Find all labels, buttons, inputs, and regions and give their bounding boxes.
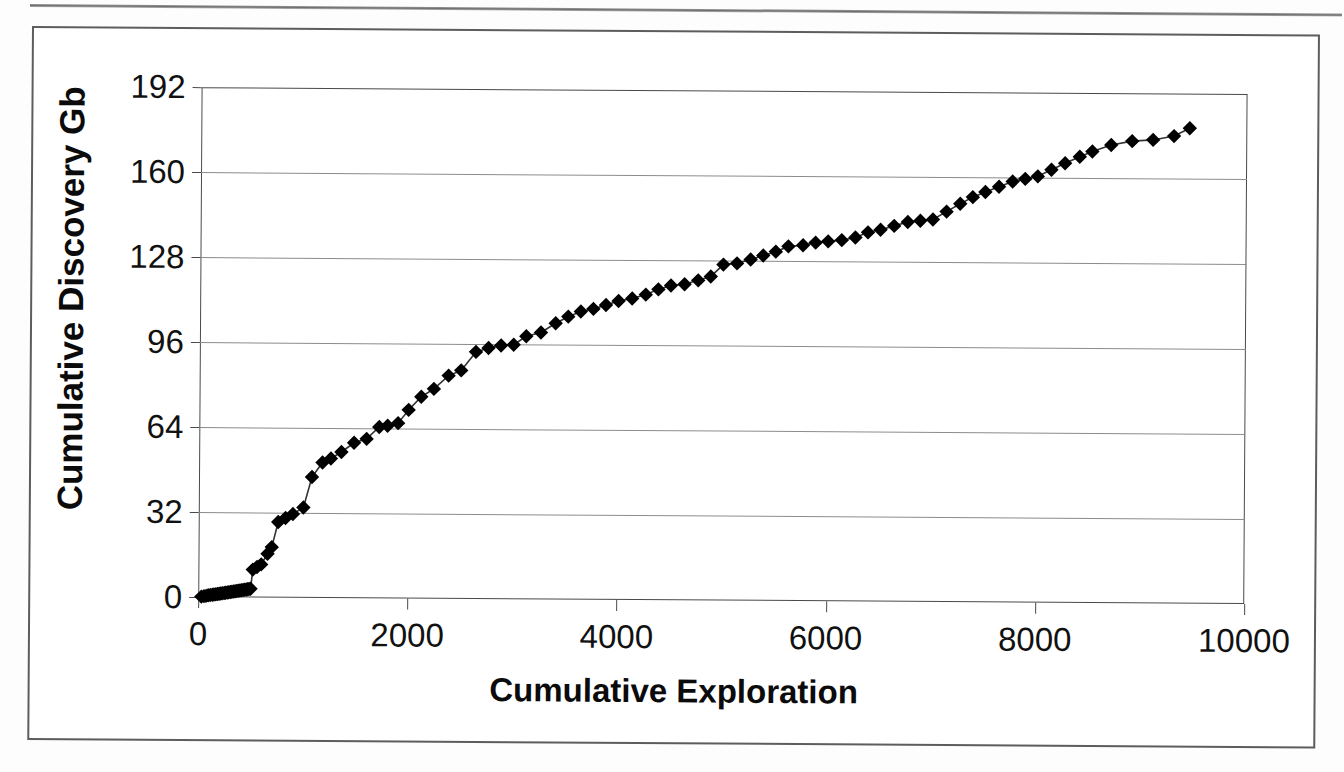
x-tick-label-0: 0 <box>189 615 208 653</box>
data-point-marker <box>1031 169 1045 183</box>
series-line <box>201 122 1189 603</box>
data-point-marker <box>519 329 533 343</box>
y-tick-label-96: 96 <box>147 323 184 361</box>
data-point-marker <box>347 436 361 450</box>
data-point-marker <box>548 316 562 330</box>
data-point-marker <box>494 338 508 352</box>
chart-frame: Cumulative Discovery Gb 0326496128160192… <box>27 26 1320 749</box>
data-point-marker <box>611 294 625 308</box>
data-point-marker <box>677 277 691 291</box>
data-point-marker <box>873 223 887 237</box>
x-tick-label-2000: 2000 <box>370 616 444 654</box>
data-point-marker <box>506 337 520 351</box>
data-point-marker <box>305 470 319 484</box>
data-point-marker <box>1018 172 1032 186</box>
y-tick-mark-160 <box>192 172 201 173</box>
data-point-marker <box>1044 163 1058 177</box>
data-point-marker <box>978 185 992 199</box>
x-tick-label-10000: 10000 <box>1198 622 1290 661</box>
x-tick-mark-4000 <box>617 600 618 611</box>
data-point-marker <box>1183 121 1197 135</box>
x-tick-mark-2000 <box>407 599 408 610</box>
x-tick-label-4000: 4000 <box>580 618 654 656</box>
data-point-marker <box>625 291 639 305</box>
data-point-marker <box>1058 156 1072 170</box>
x-tick-mark-8000 <box>1035 603 1036 614</box>
data-point-marker <box>913 213 927 227</box>
data-point-marker <box>651 282 665 296</box>
y-tick-mark-96 <box>191 342 200 343</box>
data-point-marker <box>1146 133 1160 147</box>
data-point-marker <box>664 278 678 292</box>
data-point-marker <box>756 248 770 262</box>
data-point-marker <box>861 225 875 239</box>
data-point-marker <box>481 341 495 355</box>
data-point-marker <box>1085 144 1099 158</box>
data-point-marker <box>1005 174 1019 188</box>
data-point-marker <box>966 190 980 204</box>
data-point-marker <box>939 204 953 218</box>
data-point-marker <box>561 309 575 323</box>
x-tick-mark-6000 <box>826 601 827 612</box>
y-tick-label-32: 32 <box>146 493 183 531</box>
data-point-marker <box>769 244 783 258</box>
data-point-marker <box>691 273 705 287</box>
y-tick-mark-64 <box>190 427 199 428</box>
data-point-marker <box>639 287 653 301</box>
y-tick-mark-32 <box>190 512 199 513</box>
y-tick-mark-192 <box>193 87 202 88</box>
page-top-rule <box>30 4 1342 17</box>
page-canvas: Cumulative Discovery Gb 0326496128160192… <box>0 0 1344 772</box>
x-tick-label-6000: 6000 <box>789 619 863 657</box>
data-series-creaming-curve <box>198 87 1247 604</box>
data-point-marker <box>586 302 600 316</box>
x-tick-mark-10000 <box>1244 604 1245 615</box>
y-tick-label-128: 128 <box>129 238 184 276</box>
data-point-marker <box>534 325 548 339</box>
data-point-marker <box>743 252 757 266</box>
data-point-marker <box>454 363 468 377</box>
y-tick-label-192: 192 <box>130 68 185 106</box>
y-tick-label-160: 160 <box>130 153 185 191</box>
x-axis-title: Cumulative Exploration <box>29 668 1317 715</box>
x-tick-label-8000: 8000 <box>998 620 1072 658</box>
data-point-marker <box>796 238 810 252</box>
chart-inner: Cumulative Discovery Gb 0326496128160192… <box>29 28 1318 747</box>
data-point-marker <box>781 239 795 253</box>
y-tick-label-64: 64 <box>146 408 183 446</box>
data-point-marker <box>821 234 835 248</box>
data-point-marker <box>1104 138 1118 152</box>
data-point-marker <box>926 212 940 226</box>
y-tick-mark-128 <box>191 257 200 258</box>
plot-area: 0326496128160192 0200040006000800010000 <box>198 87 1247 604</box>
data-point-marker <box>599 298 613 312</box>
data-point-marker <box>730 256 744 270</box>
y-axis-title: Cumulative Discovery Gb <box>50 63 93 533</box>
data-point-marker <box>887 219 901 233</box>
data-point-marker <box>901 215 915 229</box>
data-point-marker <box>848 230 862 244</box>
data-point-marker <box>1167 129 1181 143</box>
data-point-marker <box>1125 134 1139 148</box>
data-point-marker <box>992 179 1006 193</box>
data-point-marker <box>574 304 588 318</box>
data-point-marker <box>953 196 967 210</box>
data-point-marker <box>835 233 849 247</box>
y-tick-label-0: 0 <box>164 578 183 616</box>
data-point-marker <box>808 235 822 249</box>
data-point-marker <box>1073 149 1087 163</box>
